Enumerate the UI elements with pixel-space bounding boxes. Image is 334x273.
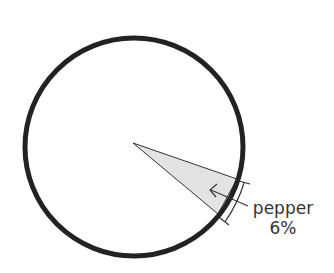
pie-outline — [25, 38, 243, 256]
slice-label: pepper 6% — [246, 198, 320, 238]
bracket-tick-top — [239, 181, 250, 184]
pepper-slice — [133, 143, 237, 214]
slice-value: 6% — [246, 218, 320, 238]
slice-name: pepper — [246, 198, 320, 218]
